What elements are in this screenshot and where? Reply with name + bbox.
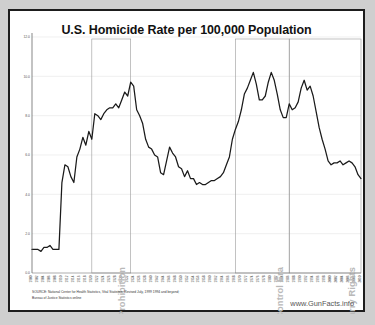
svg-text:1988: 1988: [292, 275, 296, 282]
svg-text:1922: 1922: [95, 275, 99, 282]
svg-text:1974: 1974: [250, 275, 254, 282]
svg-text:1944: 1944: [161, 275, 165, 282]
plot-area: 0.02.04.06.08.010.012.0 1900190219041906…: [10, 11, 363, 310]
homicide-rate-line: [32, 72, 361, 251]
svg-text:1990: 1990: [298, 275, 302, 282]
y-axis-tick-labels: 0.02.04.06.08.010.012.0: [23, 35, 30, 275]
svg-text:1976: 1976: [256, 275, 260, 282]
svg-text:1910: 1910: [59, 275, 63, 282]
annotation-boxes: [92, 39, 361, 273]
source-line-2: Bureau of Justice Statistics online: [32, 296, 81, 300]
svg-text:1960: 1960: [208, 275, 212, 282]
svg-text:1942: 1942: [155, 275, 159, 282]
svg-text:Modern American Gun Control Er: Modern American Gun Control Era: [275, 266, 285, 314]
svg-text:6.0: 6.0: [25, 153, 30, 157]
svg-text:2004: 2004: [340, 275, 344, 282]
svg-text:1946: 1946: [167, 275, 171, 282]
x-axis-tick-labels: 1900190219041906190819101912191419161918…: [29, 275, 362, 282]
chart-svg: 0.02.04.06.08.010.012.0 1900190219041906…: [10, 11, 367, 314]
svg-text:1918: 1918: [83, 275, 87, 282]
svg-text:4.0: 4.0: [25, 193, 30, 197]
gridlines: [32, 37, 361, 234]
svg-text:1904: 1904: [41, 275, 45, 282]
source-line-1: SOURCE: National Center for Health Stati…: [32, 290, 179, 294]
watermark-url: www.GunFacts.info: [290, 299, 354, 308]
svg-text:1962: 1962: [214, 275, 218, 282]
svg-text:1938: 1938: [143, 275, 147, 282]
svg-text:1934: 1934: [131, 275, 135, 282]
svg-text:1940: 1940: [149, 275, 153, 282]
svg-text:0.0: 0.0: [25, 271, 30, 275]
svg-text:1970: 1970: [238, 275, 242, 282]
svg-text:1912: 1912: [65, 275, 69, 282]
svg-text:1906: 1906: [47, 275, 51, 282]
svg-text:1900: 1900: [29, 275, 33, 282]
svg-text:2010: 2010: [358, 275, 362, 282]
svg-text:10.0: 10.0: [23, 75, 30, 79]
svg-text:1950: 1950: [179, 275, 183, 282]
svg-text:2000: 2000: [328, 275, 332, 282]
svg-text:1908: 1908: [53, 275, 57, 282]
svg-text:1972: 1972: [244, 275, 248, 282]
svg-text:1978: 1978: [262, 275, 266, 282]
svg-text:1966: 1966: [226, 275, 230, 282]
svg-text:12.0: 12.0: [23, 35, 30, 39]
svg-text:1994: 1994: [310, 275, 314, 282]
svg-text:1998: 1998: [322, 275, 326, 282]
svg-text:1916: 1916: [77, 275, 81, 282]
svg-text:2002: 2002: [334, 275, 338, 282]
svg-text:1914: 1914: [71, 275, 75, 282]
svg-text:1920: 1920: [89, 275, 93, 282]
svg-text:1902: 1902: [35, 275, 39, 282]
svg-text:1980: 1980: [268, 275, 272, 282]
svg-text:1954: 1954: [191, 275, 195, 282]
svg-text:1948: 1948: [173, 275, 177, 282]
svg-text:1992: 1992: [304, 275, 308, 282]
svg-text:1986: 1986: [286, 275, 290, 282]
svg-text:1952: 1952: [185, 275, 189, 282]
svg-text:1968: 1968: [232, 275, 236, 282]
svg-text:1958: 1958: [202, 275, 206, 282]
svg-text:2.0: 2.0: [25, 232, 30, 236]
chart-frame: U.S. Homicide Rate per 100,000 Populatio…: [8, 9, 365, 312]
svg-text:1924: 1924: [101, 275, 105, 282]
svg-text:1926: 1926: [107, 275, 111, 282]
svg-text:1956: 1956: [196, 275, 200, 282]
svg-text:8.0: 8.0: [25, 114, 30, 118]
svg-text:1936: 1936: [137, 275, 141, 282]
svg-text:1996: 1996: [316, 275, 320, 282]
svg-text:1964: 1964: [220, 275, 224, 282]
